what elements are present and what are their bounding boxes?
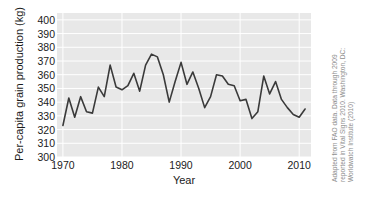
plot-area: [57, 13, 311, 157]
y-tick-label: 340: [29, 97, 55, 108]
y-tick-label: 320: [29, 125, 55, 136]
x-tick-label: 1970: [43, 160, 83, 171]
y-tick-label: 350: [29, 83, 55, 94]
y-tick-label: 370: [29, 56, 55, 67]
data-line-per-capita-grain-production: [63, 54, 305, 125]
x-tick-label: 1990: [161, 160, 201, 171]
source-credit-note: Adapted from FAO data. Data through 2009…: [322, 10, 348, 182]
y-axis-title: Per-capita grain production (kg): [13, 4, 25, 164]
x-tick-label: 2010: [279, 160, 319, 171]
y-tick-label: 400: [29, 15, 55, 26]
x-axis-tick-labels: 19701980199020002010: [57, 160, 311, 174]
y-tick-label: 380: [29, 42, 55, 53]
y-tick-label: 330: [29, 111, 55, 122]
chart-figure: Per-capita grain production (kg) 3003103…: [0, 0, 367, 197]
y-tick-label: 390: [29, 29, 55, 40]
x-axis-title: Year: [57, 174, 311, 186]
line-chart-svg: [57, 13, 311, 157]
credit-line-3: Worldwatch Institute (2010): [346, 10, 355, 182]
x-tick-label: 2000: [220, 160, 260, 171]
y-tick-label: 310: [29, 138, 55, 149]
gridlines: [57, 13, 311, 157]
y-tick-label: 360: [29, 70, 55, 81]
x-tick-label: 1980: [102, 160, 142, 171]
